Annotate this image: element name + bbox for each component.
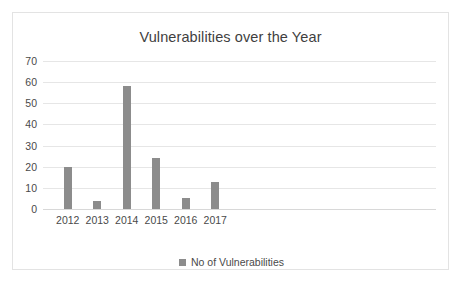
y-axis-tick-20: 20 (25, 161, 37, 173)
y-axis-tick-40: 40 (25, 118, 37, 130)
x-axis-label-2012: 2012 (56, 214, 79, 226)
plot-area: 010203040506070 (43, 61, 436, 209)
y-axis-tick-30: 30 (25, 140, 37, 152)
x-axis-label-2016: 2016 (174, 214, 197, 226)
gridline-0: 0 (43, 209, 436, 210)
y-axis-tick-50: 50 (25, 97, 37, 109)
chart-title: Vulnerabilities over the Year (13, 29, 448, 45)
y-axis-tick-10: 10 (25, 182, 37, 194)
chart-frame: Vulnerabilities over the Year 0102030405… (12, 12, 449, 270)
x-axis-label-2013: 2013 (86, 214, 109, 226)
legend-swatch-icon (179, 259, 186, 266)
bar-2015 (152, 158, 160, 209)
bars-group (43, 61, 436, 209)
y-axis-tick-60: 60 (25, 76, 37, 88)
bar-2014 (123, 86, 131, 209)
x-axis-label-2014: 2014 (115, 214, 138, 226)
legend-label: No of Vulnerabilities (191, 256, 284, 268)
y-axis-tick-70: 70 (25, 55, 37, 67)
x-axis-label-2017: 2017 (204, 214, 227, 226)
x-axis-label-2015: 2015 (145, 214, 168, 226)
bar-2017 (211, 182, 219, 209)
y-axis-tick-0: 0 (31, 203, 37, 215)
x-axis-labels: 201220132014201520162017 (43, 214, 436, 230)
bar-2016 (182, 198, 190, 209)
bar-2013 (93, 201, 101, 209)
bar-2012 (64, 167, 72, 209)
chart-legend: No of Vulnerabilities (13, 256, 450, 268)
